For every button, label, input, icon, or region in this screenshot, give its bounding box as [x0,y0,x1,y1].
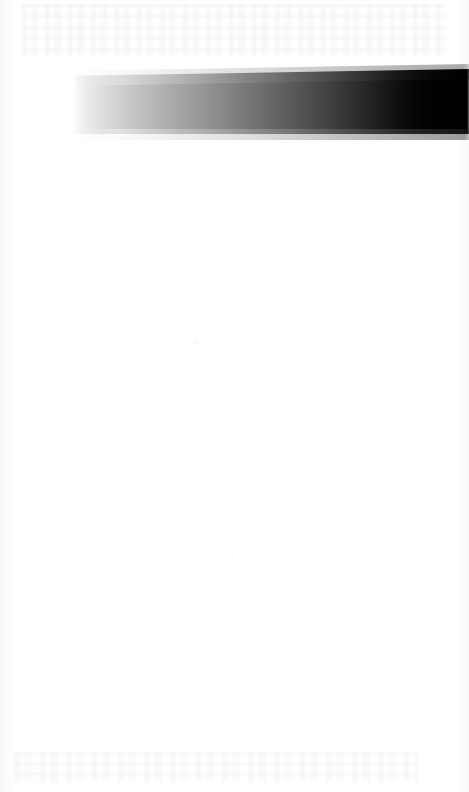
bottom-margin-bleedthrough-text [14,752,418,782]
scanned-page [0,0,469,792]
paper-speckle-noise [0,0,469,792]
